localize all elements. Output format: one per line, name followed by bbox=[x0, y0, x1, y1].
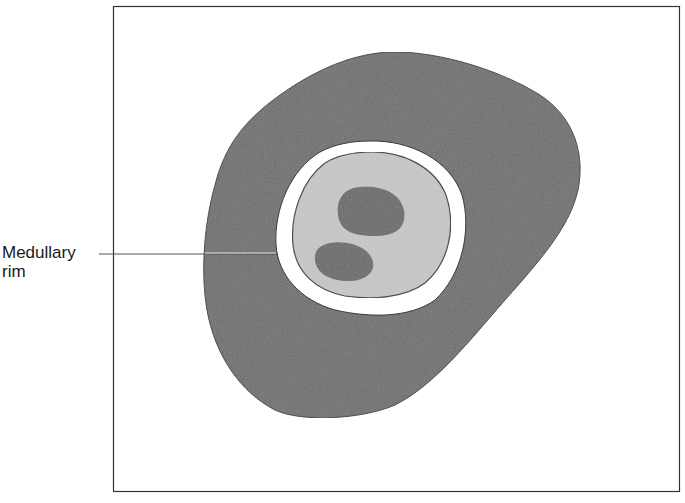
diagram-canvas: Medullary rim bbox=[0, 0, 685, 503]
medullary-rim-label-line-2: rim bbox=[2, 262, 76, 281]
medullary-rim-label: Medullary rim bbox=[2, 243, 76, 281]
medullary-rim-label-line-1: Medullary bbox=[2, 243, 76, 262]
diagram-figure bbox=[0, 0, 685, 503]
